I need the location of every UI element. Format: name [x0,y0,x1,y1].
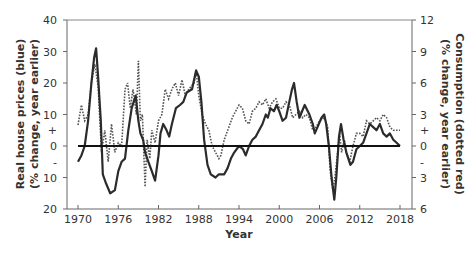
left-axis-title-line2: (% change, year earlier) [28,39,41,189]
x-tick-label: 1994 [225,213,253,226]
left-y-axis-ticks: 40302010+0-1020 [43,14,67,216]
plot-frame [67,20,412,209]
x-tick-label: 1988 [185,213,213,226]
x-axis-title: Year [224,228,253,241]
left-tick-label: 0 [50,140,57,153]
right-tick-label: 0 [420,140,427,153]
right-tick-label: 9 [420,46,427,59]
right-tick-label: - [420,156,424,169]
right-tick-label: + [420,124,429,137]
left-tick-label: 10 [43,109,57,122]
left-tick-label: + [48,124,57,137]
house-prices-solid-line [78,48,400,199]
x-axis-ticks: 197019761982198819942000200620122018 [64,205,414,226]
x-tick-label: 1976 [104,213,132,226]
x-tick-label: 1970 [64,213,92,226]
left-axis-title-line1: Real house prices (blue) [14,39,27,189]
right-y-axis-ticks: 12963+0-36 [412,14,434,216]
right-tick-label: 3 [420,172,427,185]
left-tick-label: - [53,156,57,169]
left-tick-label: 40 [43,14,57,27]
right-axis-title-line2: (% change, year earlier) [439,39,452,189]
right-axis-title-line1: Consumption (dotted red) [453,33,466,194]
x-tick-label: 2018 [386,213,414,226]
x-tick-label: 2000 [265,213,293,226]
left-tick-label: 30 [43,46,57,59]
right-axis-title: Consumption (dotted red) (% change, year… [439,33,466,194]
line-chart: 40302010+0-1020 12963+0-36 1970197619821… [0,0,476,253]
consumption-dotted-line [78,61,400,190]
left-tick-label: 20 [43,77,57,90]
right-tick-label: 3 [420,109,427,122]
left-axis-title: Real house prices (blue) (% change, year… [14,39,41,189]
x-tick-label: 2006 [306,213,334,226]
x-tick-label: 1982 [145,213,173,226]
left-tick-label: 10 [43,172,57,185]
right-tick-label: 6 [420,77,427,90]
left-tick-label: 20 [43,203,57,216]
right-tick-label: 6 [420,203,427,216]
right-tick-label: 12 [420,14,434,27]
x-tick-label: 2012 [346,213,374,226]
